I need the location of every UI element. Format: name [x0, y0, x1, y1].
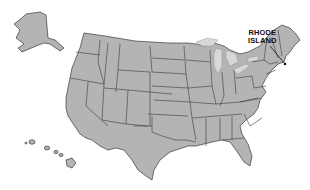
us-outline: [66, 25, 300, 180]
alaska-inset: [14, 12, 64, 52]
rhode-island-label: RHODE ISLAND: [248, 29, 277, 45]
contiguous-us: [66, 25, 300, 180]
rhode-island-marker: [284, 63, 287, 66]
state-alaska: [14, 12, 64, 52]
label-line-2: ISLAND: [248, 37, 277, 45]
hawaii-inset: [25, 140, 76, 168]
